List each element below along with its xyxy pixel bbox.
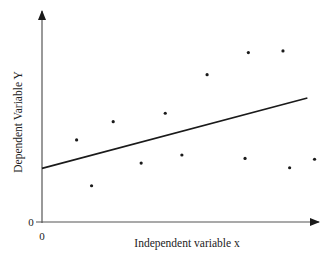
x-origin-label: 0 bbox=[39, 230, 45, 242]
data-point bbox=[243, 157, 246, 160]
data-point bbox=[75, 138, 78, 141]
regression-line-path bbox=[42, 98, 307, 168]
data-point bbox=[288, 166, 291, 169]
data-point bbox=[140, 161, 143, 164]
y-origin-label: 0 bbox=[28, 216, 34, 228]
regression-line bbox=[42, 98, 307, 168]
y-axis-label: Dependent Variable Y bbox=[12, 71, 25, 173]
data-point bbox=[205, 73, 208, 76]
data-point bbox=[247, 51, 250, 54]
data-point bbox=[180, 153, 183, 156]
data-points bbox=[75, 49, 316, 187]
data-point bbox=[164, 112, 167, 115]
data-point bbox=[281, 49, 284, 52]
data-point bbox=[90, 184, 93, 187]
data-point bbox=[313, 158, 316, 161]
data-point bbox=[112, 120, 115, 123]
x-axis-label: Independent variable x bbox=[134, 237, 240, 250]
scatter-chart: 0 0 Independent variable x Dependent Var… bbox=[0, 0, 328, 257]
